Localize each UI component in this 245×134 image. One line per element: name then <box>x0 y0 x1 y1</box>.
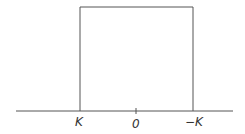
rectangular-pulse <box>80 7 193 111</box>
label-origin: 0 <box>132 117 140 131</box>
label-left: K <box>75 115 84 129</box>
label-right: −K <box>185 115 204 129</box>
pulse-diagram: K 0 −K <box>0 0 245 134</box>
